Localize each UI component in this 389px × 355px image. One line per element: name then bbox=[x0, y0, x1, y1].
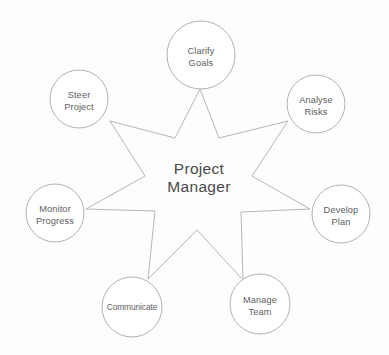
node-communicate[interactable]: Communicate bbox=[102, 277, 162, 337]
node-label-develop-plan-line1: Develop bbox=[324, 205, 359, 215]
diagram-canvas-container: ClarifyGoalsAnalyseRisksDevelopPlanManag… bbox=[0, 0, 389, 355]
node-label-analyse-risks-line1: Analyse bbox=[299, 95, 333, 105]
node-label-monitor-progress-line2: Progress bbox=[36, 216, 74, 226]
node-label-manage-team-line1: Manage bbox=[243, 295, 277, 305]
node-label-clarify-goals-line1: Clarify bbox=[187, 46, 214, 56]
node-label-steer-project-line2: Project bbox=[64, 102, 94, 112]
node-label-develop-plan-line2: Plan bbox=[332, 217, 351, 227]
node-manage-team[interactable]: ManageTeam bbox=[230, 274, 290, 334]
center-label-line2: Manager bbox=[167, 178, 230, 195]
node-label-steer-project-line1: Steer bbox=[68, 90, 91, 100]
node-analyse-risks[interactable]: AnalyseRisks bbox=[287, 75, 345, 133]
center-label-line1: Project bbox=[174, 160, 225, 177]
node-label-clarify-goals-line2: Goals bbox=[189, 58, 214, 68]
node-develop-plan[interactable]: DevelopPlan bbox=[312, 185, 370, 243]
center-node: Project Manager bbox=[167, 160, 230, 195]
node-steer-project[interactable]: SteerProject bbox=[50, 70, 108, 128]
node-label-analyse-risks-line2: Risks bbox=[304, 107, 327, 117]
star-diagram: ClarifyGoalsAnalyseRisksDevelopPlanManag… bbox=[0, 0, 389, 355]
node-label-communicate-line1: Communicate bbox=[107, 302, 158, 312]
node-clarify-goals[interactable]: ClarifyGoals bbox=[167, 21, 235, 89]
node-monitor-progress[interactable]: MonitorProgress bbox=[26, 184, 84, 242]
node-label-monitor-progress-line1: Monitor bbox=[39, 204, 71, 214]
node-label-manage-team-line2: Team bbox=[248, 307, 271, 317]
